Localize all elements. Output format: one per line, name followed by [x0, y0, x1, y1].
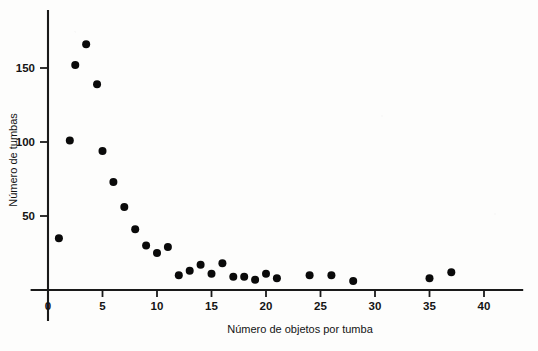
x-axis-tick-label: 35 — [423, 300, 436, 312]
scatter-plot-canvas: 051015202530354050100150Número de objeto… — [0, 0, 538, 351]
data-point — [66, 137, 74, 145]
data-point — [142, 242, 150, 250]
data-point — [164, 243, 172, 251]
data-point — [240, 273, 248, 281]
data-point — [208, 270, 216, 278]
x-axis-tick-label: 30 — [369, 300, 382, 312]
data-point — [197, 261, 205, 269]
x-axis-tick-label: 0 — [45, 300, 51, 312]
x-axis-tick-label: 15 — [205, 300, 218, 312]
data-point — [218, 259, 226, 267]
y-axis-title: Número de tumbas — [7, 113, 19, 207]
x-axis-tick-label: 25 — [314, 300, 327, 312]
x-axis-tick-label: 20 — [260, 300, 273, 312]
data-point — [55, 234, 63, 242]
data-point — [327, 271, 335, 279]
y-axis-tick-label: 50 — [22, 210, 35, 222]
data-point — [306, 271, 314, 279]
data-point — [251, 276, 259, 284]
x-axis-tick-label: 40 — [478, 300, 491, 312]
data-point — [93, 80, 101, 88]
data-point — [71, 61, 79, 69]
data-point — [175, 271, 183, 279]
data-point — [262, 270, 270, 278]
data-point — [426, 274, 434, 282]
data-point — [229, 273, 237, 281]
data-point — [131, 225, 139, 233]
data-point — [109, 178, 117, 186]
x-axis-tick-label: 5 — [99, 300, 106, 312]
data-point — [120, 203, 128, 211]
y-axis-tick-label: 150 — [16, 62, 35, 74]
data-point — [82, 40, 90, 48]
scatter-chart-figure: 051015202530354050100150Número de objeto… — [0, 0, 538, 351]
data-point — [186, 267, 194, 275]
data-point — [153, 249, 161, 257]
x-axis-title: Número de objetos por tumba — [227, 323, 373, 335]
x-axis-tick-label: 10 — [151, 300, 164, 312]
data-point — [349, 277, 357, 285]
data-point — [99, 147, 107, 155]
data-point — [273, 274, 281, 282]
data-point-group — [55, 40, 455, 285]
data-point — [447, 268, 455, 276]
